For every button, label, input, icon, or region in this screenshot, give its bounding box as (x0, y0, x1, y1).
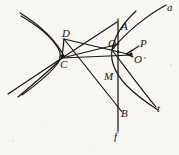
paper-speckle (12, 140, 14, 142)
label-D: D (62, 28, 70, 39)
paper-speckle (90, 144, 91, 145)
point-O-period (144, 57, 146, 59)
label-A: A (121, 21, 128, 32)
point-O-dot (130, 53, 133, 56)
label-C: C (60, 59, 67, 70)
conic-diagram (0, 0, 179, 155)
label-O: O (134, 54, 142, 65)
label-t: t (157, 103, 160, 114)
label-alpha: a (167, 2, 173, 13)
label-B: B (121, 108, 128, 119)
label-P: P (140, 38, 147, 49)
paper-speckle (170, 64, 172, 66)
label-M: M (104, 71, 113, 82)
figure-canvas: a A Q P O D C M B f t (0, 0, 179, 155)
label-f: f (114, 131, 117, 142)
label-Q: Q (108, 38, 116, 49)
paper-speckle (40, 120, 41, 121)
asymptote-lower-left-line (18, 56, 64, 97)
line-C-to-lower-left (8, 58, 62, 94)
point-Q-dot (117, 51, 119, 53)
